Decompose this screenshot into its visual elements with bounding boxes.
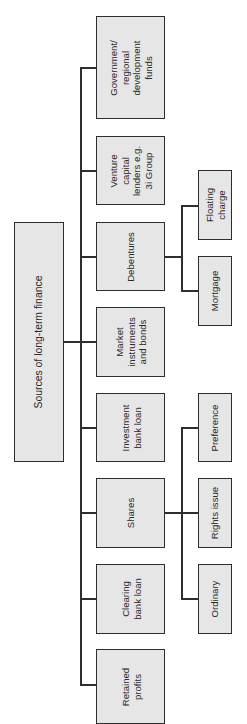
branch-ordinary <box>181 598 198 600</box>
node-label: Investment bank loan <box>119 404 142 451</box>
node-label: Preference <box>209 404 221 451</box>
node-market: Market instruments and bonds <box>96 307 165 377</box>
node-label: Mortgage <box>209 271 221 312</box>
node-mortgage: Mortgage <box>198 256 232 326</box>
branch-government <box>80 67 97 69</box>
node-label: Retained profits <box>119 667 142 705</box>
node-label: Market instruments and bonds <box>113 317 148 367</box>
node-ordinary: Ordinary <box>198 564 232 634</box>
node-clearing: Clearing bank loan <box>96 564 165 634</box>
node-preference: Preference <box>198 393 232 462</box>
branch-clearing <box>80 598 97 600</box>
branch-shares <box>80 512 97 514</box>
branch-retained <box>80 684 97 686</box>
node-shares: Shares <box>96 478 165 548</box>
trunk-line <box>80 68 82 685</box>
node-debentures: Debentures <box>96 222 165 291</box>
node-rights: Rights issue <box>198 478 232 548</box>
node-venture: Venture capital lenders e.g. 3i Group <box>96 136 165 205</box>
root-node: Sources of long-term finance <box>14 222 64 462</box>
branch-floating <box>181 205 198 207</box>
node-label: Shares <box>125 498 137 528</box>
branch-debentures <box>80 256 97 258</box>
root-connector <box>64 341 97 343</box>
node-label: Venture capital lenders e.g. 3i Group <box>108 145 154 195</box>
node-label: Debentures <box>125 232 137 282</box>
branch-mortgage <box>181 290 198 292</box>
node-label: Ordinary <box>209 581 221 618</box>
debentures-connector <box>164 256 181 258</box>
node-label: Floating charge <box>204 188 227 222</box>
node-floating: Floating charge <box>198 170 232 240</box>
root-label: Sources of long-term finance <box>33 276 45 409</box>
node-government: Government/ regional development funds <box>96 16 165 119</box>
node-label: Government/ regional development funds <box>108 40 154 95</box>
debentures-subtrunk <box>181 205 183 291</box>
node-retained: Retained profits <box>96 649 165 724</box>
shares-subtrunk <box>181 427 183 599</box>
node-investment: Investment bank loan <box>96 393 165 462</box>
branch-investment <box>80 427 97 429</box>
node-label: Rights issue <box>209 487 221 539</box>
branch-venture <box>80 170 97 172</box>
branch-preference <box>181 427 198 429</box>
node-label: Clearing bank loan <box>119 578 142 620</box>
